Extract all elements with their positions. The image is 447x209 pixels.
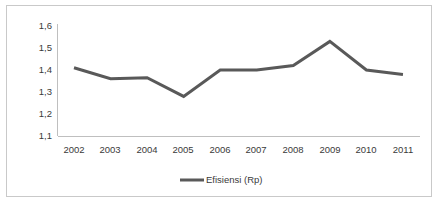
x-tick-label: 2008 xyxy=(282,144,303,155)
x-tick-label: 2011 xyxy=(393,144,413,155)
x-tick-label: 2006 xyxy=(209,144,230,155)
y-tick-label: 1,5 xyxy=(39,42,52,53)
x-tick-label: 2004 xyxy=(136,144,157,155)
x-axis-tick-labels: 2002 2003 2004 2005 2006 2007 2008 2009 … xyxy=(63,144,413,155)
y-tick-label: 1,1 xyxy=(39,130,52,141)
chart-figure: 1,6 1,5 1,4 1,3 1,2 1,1 2002 2003 2004 2… xyxy=(0,0,447,209)
x-tick-label: 2007 xyxy=(245,144,266,155)
legend-entry-label: Efisiensi (Rp) xyxy=(206,174,263,185)
x-tick-label: 2010 xyxy=(355,144,376,155)
chart-legend: Efisiensi (Rp) xyxy=(180,174,263,185)
y-axis-tick-labels: 1,6 1,5 1,4 1,3 1,2 1,1 xyxy=(39,20,52,141)
y-tick-label: 1,4 xyxy=(39,64,52,75)
x-tick-label: 2003 xyxy=(99,144,120,155)
y-tick-label: 1,2 xyxy=(39,108,52,119)
x-tick-label: 2005 xyxy=(172,144,193,155)
x-tick-label: 2002 xyxy=(63,144,84,155)
line-chart-plot: 1,6 1,5 1,4 1,3 1,2 1,1 2002 2003 2004 2… xyxy=(0,0,447,209)
series-line-efisiensi xyxy=(74,41,403,96)
y-tick-label: 1,3 xyxy=(39,86,52,97)
y-tick-label: 1,6 xyxy=(39,20,52,31)
x-tick-label: 2009 xyxy=(319,144,340,155)
